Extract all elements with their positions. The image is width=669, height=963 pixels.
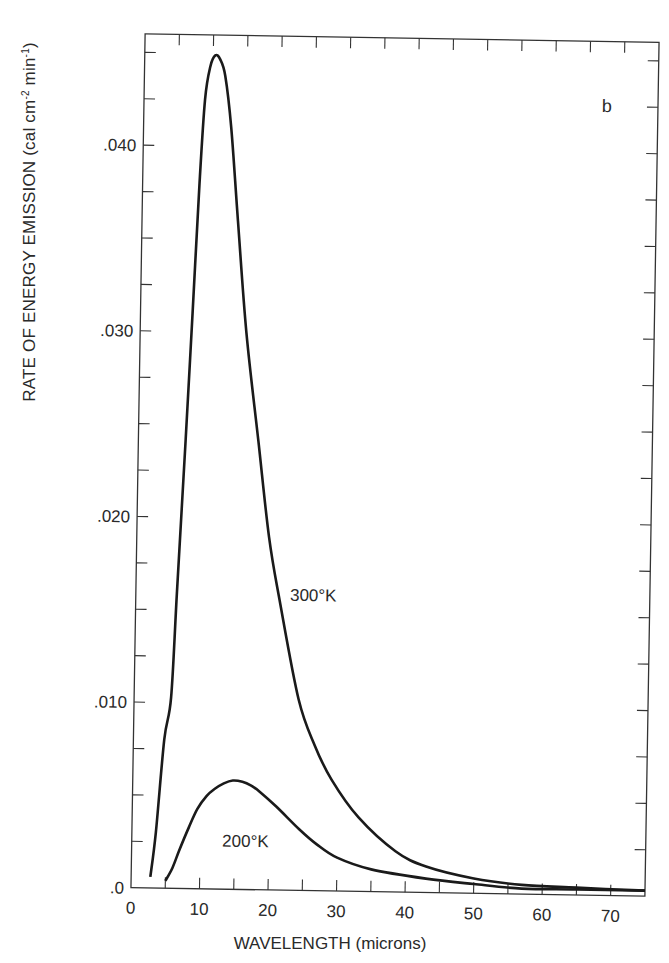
y-tick-label: .0	[110, 878, 125, 897]
x-axis-label: WAVELENGTH (microns)	[234, 934, 427, 954]
panel-label: b	[602, 96, 612, 116]
x-tick-label: 0	[126, 899, 136, 918]
y-tick-label: .010	[94, 692, 127, 712]
x-tick-label: 70	[601, 906, 620, 925]
series-label-300k: 300°K	[290, 586, 337, 606]
y-tick-label: .040	[103, 136, 136, 156]
plot-canvas: 010203040506070.0.010.020.030.040300°K20…	[0, 0, 669, 963]
x-tick-label: 40	[395, 903, 414, 922]
x-tick-label: 10	[190, 900, 209, 919]
curve-300k	[150, 54, 658, 891]
plot-frame: 010203040506070.0.010.020.030.040300°K20…	[90, 33, 659, 926]
x-tick-label: 60	[532, 905, 551, 924]
x-tick-label: 50	[464, 904, 483, 923]
series-label-200k: 200°K	[222, 831, 269, 851]
plot-border	[131, 34, 659, 896]
y-tick-label: .030	[100, 321, 133, 341]
y-axis-label: RATE OF ENERGY EMISSION (cal cm-2 min-1)	[20, 42, 41, 402]
x-tick-label: 20	[258, 901, 277, 920]
y-tick-label: .020	[97, 507, 130, 527]
x-tick-label: 30	[327, 902, 346, 921]
